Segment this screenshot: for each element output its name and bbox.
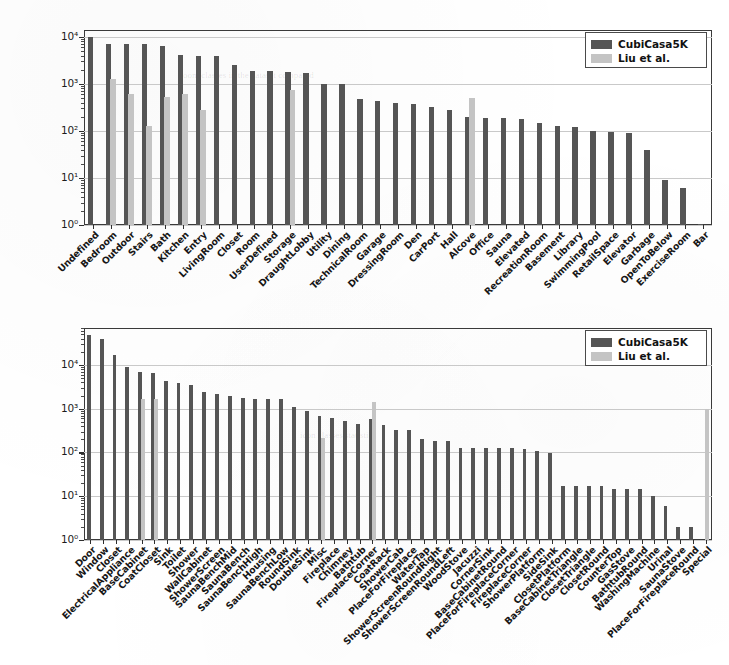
bar-cubicasa xyxy=(87,335,91,540)
legend-row-liu: Liu et al. xyxy=(591,51,699,65)
bar-cubicasa xyxy=(510,448,514,540)
legend-row-cubicasa: CubiCasa5K xyxy=(591,335,699,349)
bar-liu xyxy=(146,126,151,225)
bar-cubicasa xyxy=(292,407,296,540)
bar-cubicasa xyxy=(555,126,560,225)
chart-panel-icons: 10⁰10¹10²10³10⁴ DoorWindowClosetElectric… xyxy=(0,320,729,665)
bar-cubicasa xyxy=(253,399,257,540)
y-axis-tick-label: 10³ xyxy=(34,77,78,89)
bar-cubicasa xyxy=(612,489,616,540)
bar-cubicasa xyxy=(644,150,649,225)
legend-row-liu: Liu et al. xyxy=(591,349,699,363)
bar-cubicasa xyxy=(680,188,685,225)
bar-cubicasa xyxy=(88,37,93,225)
bar-cubicasa xyxy=(590,131,595,225)
bar-liu xyxy=(705,409,709,540)
bar-cubicasa xyxy=(267,71,272,225)
y-axis-tick-label: 10⁰ xyxy=(34,218,78,230)
y-axis-tick-label: 10⁰ xyxy=(34,533,78,545)
bar-cubicasa xyxy=(535,451,539,540)
bar-liu xyxy=(290,90,295,225)
y-axis-tick-label: 10³ xyxy=(34,402,78,414)
y-axis-tick-label: 10² xyxy=(34,445,78,457)
bar-cubicasa xyxy=(393,103,398,225)
bar-cubicasa xyxy=(232,65,237,225)
legend-swatch-liu-icon xyxy=(591,352,612,361)
y-axis-tick xyxy=(79,540,84,541)
bar-cubicasa xyxy=(215,394,219,540)
bar-cubicasa xyxy=(433,441,437,540)
bar-liu xyxy=(182,94,187,225)
y-axis-tick-label: 10⁴ xyxy=(34,30,78,42)
bar-cubicasa xyxy=(676,527,680,540)
y-axis-tick xyxy=(79,225,84,226)
legend-swatch-cubicasa-icon xyxy=(591,40,612,49)
legend-label-cubicasa: CubiCasa5K xyxy=(618,336,688,348)
bar-liu xyxy=(128,94,133,225)
bar-cubicasa xyxy=(164,381,168,540)
bar-cubicasa xyxy=(664,506,668,540)
legend-label-cubicasa: CubiCasa5K xyxy=(618,38,688,50)
bar-liu xyxy=(321,438,325,540)
bar-cubicasa xyxy=(572,127,577,225)
bar-cubicasa xyxy=(321,84,326,225)
bar-liu xyxy=(200,110,205,225)
bar-liu xyxy=(469,98,474,225)
y-axis-tick-label: 10⁴ xyxy=(34,358,78,370)
legend-icons: CubiCasa5K Liu et al. xyxy=(585,330,707,366)
bar-cubicasa xyxy=(339,84,344,225)
bar-cubicasa xyxy=(343,421,347,540)
y-axis-tick-label: 10¹ xyxy=(34,489,78,501)
bar-cubicasa xyxy=(689,527,693,540)
bar-cubicasa xyxy=(177,383,181,540)
bar-cubicasa xyxy=(608,132,613,225)
bar-cubicasa xyxy=(330,418,334,540)
bar-cubicasa xyxy=(501,118,506,225)
bar-cubicasa xyxy=(250,71,255,225)
bar-cubicasa xyxy=(459,448,463,540)
bar-cubicasa xyxy=(548,453,552,540)
bar-cubicasa xyxy=(279,399,283,540)
legend-swatch-cubicasa-icon xyxy=(591,338,612,347)
bar-cubicasa xyxy=(651,496,655,540)
bar-cubicasa xyxy=(305,411,309,540)
bar-cubicasa xyxy=(429,107,434,225)
x-axis-labels-icons: DoorWindowClosetElectricalApplianceBaseC… xyxy=(84,542,712,652)
bar-cubicasa xyxy=(497,448,501,540)
bar-cubicasa xyxy=(537,123,542,225)
bar-cubicasa xyxy=(411,104,416,225)
bar-cubicasa xyxy=(561,486,565,540)
bar-cubicasa xyxy=(587,486,591,540)
bar-liu xyxy=(372,402,376,540)
bar-cubicasa xyxy=(357,99,362,225)
bar-cubicasa xyxy=(241,398,245,540)
bar-cubicasa xyxy=(113,355,117,540)
y-axis-tick-label: 10¹ xyxy=(34,171,78,183)
bar-cubicasa xyxy=(600,486,604,540)
legend-label-liu: Liu et al. xyxy=(618,52,670,64)
bar-cubicasa xyxy=(446,441,450,540)
bar-cubicasa xyxy=(214,56,219,225)
legend-rooms: CubiCasa5K Liu et al. xyxy=(585,32,707,68)
bar-cubicasa xyxy=(125,367,129,540)
bar-liu xyxy=(141,399,145,540)
bar-cubicasa xyxy=(447,110,452,225)
bar-cubicasa xyxy=(471,448,475,540)
bar-cubicasa xyxy=(356,424,360,540)
x-axis-labels-rooms: UndefinedBedroomOutdoorStairsBathKitchen… xyxy=(84,227,712,317)
bar-cubicasa xyxy=(484,448,488,540)
bar-cubicasa xyxy=(523,449,527,540)
bar-cubicasa xyxy=(266,399,270,540)
bar-liu xyxy=(164,97,169,225)
bar-cubicasa xyxy=(407,430,411,540)
bar-cubicasa xyxy=(638,489,642,540)
bar-cubicasa xyxy=(519,119,524,225)
bar-cubicasa xyxy=(100,339,104,540)
figure-container: room classes in the dataset compared ico… xyxy=(0,0,729,665)
legend-swatch-liu-icon xyxy=(591,54,612,63)
y-axis-tick-label: 10² xyxy=(34,124,78,136)
bar-cubicasa xyxy=(483,118,488,225)
bar-cubicasa xyxy=(625,489,629,540)
bar-cubicasa xyxy=(202,392,206,540)
bar-cubicasa xyxy=(228,396,232,540)
